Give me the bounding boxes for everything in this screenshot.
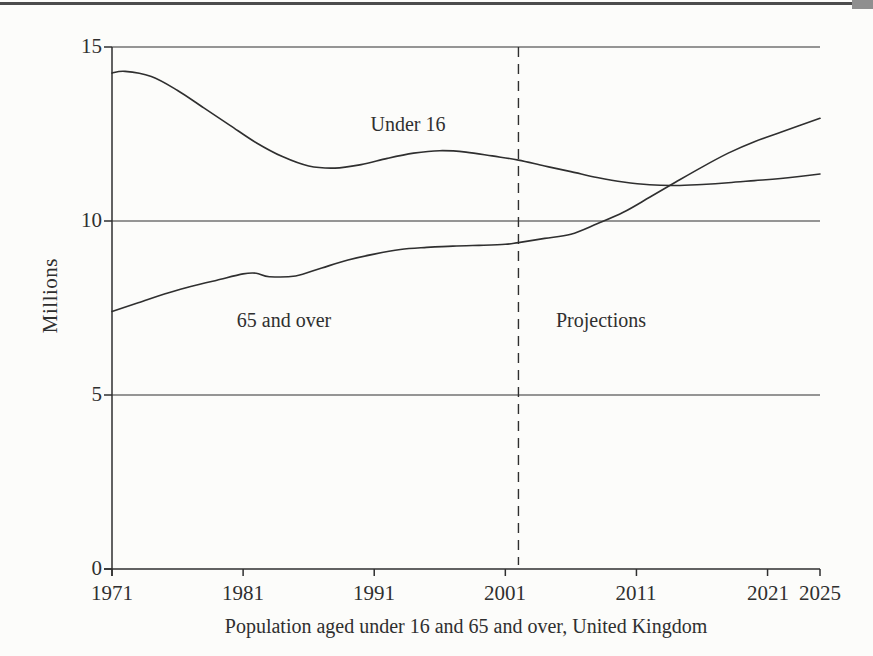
series-label-65-and-over: 65 and over <box>237 309 331 332</box>
chart-canvas <box>0 0 873 656</box>
x-tick-label: 1981 <box>222 581 264 606</box>
series-line-under-16 <box>112 71 820 185</box>
x-tick-label: 2001 <box>484 581 526 606</box>
series-label-under-16: Under 16 <box>371 113 446 136</box>
x-tick-label: 2011 <box>615 581 656 606</box>
x-tick-label: 1991 <box>353 581 395 606</box>
y-axis-title: Millions <box>38 258 63 333</box>
x-tick-label: 2025 <box>799 581 841 606</box>
scanned-page: Millions Under 16 65 and over Projection… <box>0 0 873 656</box>
population-chart: Millions Under 16 65 and over Projection… <box>0 0 873 656</box>
projections-label: Projections <box>556 309 646 332</box>
y-tick-label: 0 <box>42 556 102 581</box>
y-tick-label: 10 <box>42 208 102 233</box>
x-tick-label: 2021 <box>747 581 789 606</box>
y-tick-label: 5 <box>42 382 102 407</box>
series-line-65-and-over <box>112 118 820 311</box>
y-tick-label: 15 <box>42 34 102 59</box>
x-tick-label: 1971 <box>91 581 133 606</box>
chart-caption: Population aged under 16 and 65 and over… <box>112 615 820 638</box>
